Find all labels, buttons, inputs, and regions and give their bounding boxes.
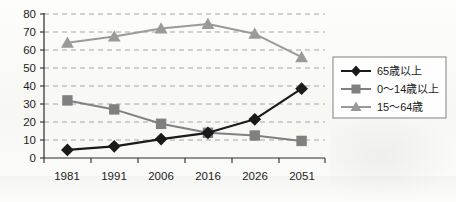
diamond-marker bbox=[248, 113, 261, 126]
square-marker bbox=[296, 136, 306, 146]
gridlines bbox=[44, 14, 325, 140]
x-tick-label: 2026 bbox=[242, 170, 268, 182]
y-axis-tick-labels: 80 70 60 50 40 30 20 10 0 bbox=[23, 8, 36, 164]
square-icon bbox=[352, 85, 361, 94]
y-tick-label: 80 bbox=[23, 8, 36, 20]
series-layer bbox=[61, 18, 308, 157]
diamond-marker bbox=[295, 82, 308, 95]
series-line bbox=[67, 89, 301, 150]
legend-label: 65歳以上 bbox=[377, 65, 422, 77]
x-tick-label: 1991 bbox=[101, 170, 127, 182]
triangle-marker bbox=[295, 51, 308, 62]
square-marker bbox=[62, 95, 72, 105]
legend-label: 0〜14歳以上 bbox=[377, 83, 439, 95]
diamond-marker bbox=[61, 144, 74, 157]
x-tick-label: 2051 bbox=[289, 170, 315, 182]
series-line bbox=[67, 24, 301, 57]
population-age-structure-line-chart: 80 70 60 50 40 30 20 10 0 1981 1991 2006… bbox=[0, 0, 456, 202]
y-tick-label: 60 bbox=[23, 44, 36, 56]
x-tick-label: 2006 bbox=[148, 170, 174, 182]
triangle-marker bbox=[202, 18, 215, 29]
square-marker bbox=[156, 119, 166, 129]
series-square bbox=[62, 95, 307, 146]
y-tick-label: 20 bbox=[23, 116, 36, 128]
y-tick-label: 70 bbox=[23, 26, 36, 38]
y-tick-label: 0 bbox=[30, 152, 36, 164]
series-diamond bbox=[61, 82, 308, 156]
square-marker bbox=[109, 104, 119, 114]
x-axis-ticks bbox=[44, 158, 325, 163]
y-tick-label: 50 bbox=[23, 62, 36, 74]
x-axis-category-labels: 1981 1991 2006 2016 2026 2051 bbox=[54, 170, 315, 182]
legend-entry-0-14[interactable]: 0〜14歳以上 bbox=[341, 83, 439, 95]
diamond-marker bbox=[108, 140, 121, 153]
series-line bbox=[67, 100, 301, 140]
y-tick-label: 10 bbox=[23, 134, 36, 146]
series-triangle bbox=[61, 18, 308, 63]
x-tick-label: 1981 bbox=[54, 170, 80, 182]
diamond-marker bbox=[155, 133, 168, 146]
chart-screenshot: 80 70 60 50 40 30 20 10 0 1981 1991 2006… bbox=[0, 0, 456, 202]
legend-label: 15〜64歳 bbox=[377, 101, 423, 113]
chart-legend: 65歳以上 0〜14歳以上 15〜64歳 bbox=[333, 57, 446, 118]
y-tick-label: 30 bbox=[23, 98, 36, 110]
square-marker bbox=[250, 130, 260, 140]
y-tick-label: 40 bbox=[23, 80, 36, 92]
x-tick-label: 2016 bbox=[195, 170, 221, 182]
